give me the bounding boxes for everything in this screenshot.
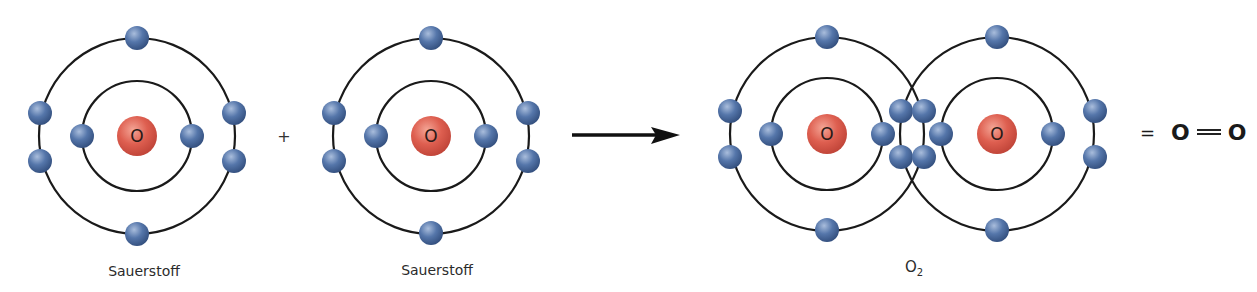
oxygen-bonding-diagram: O O [0,0,1257,292]
formula-atom-right: O [1228,120,1247,145]
electron [222,101,246,125]
electron [474,124,498,148]
electron [222,149,246,173]
nucleus-symbol-right: O [990,124,1003,144]
nucleus-symbol: O [424,126,437,146]
shared-electron [912,145,936,169]
nucleus-symbol: O [130,126,143,146]
electron [180,124,204,148]
reaction-arrow [572,127,680,144]
electron [28,101,52,125]
reactant-label-2: Sauerstoff [401,262,473,278]
electron [419,221,443,245]
electron [322,101,346,125]
electron [985,218,1009,242]
electron [929,122,953,146]
electron [718,99,742,123]
plus-operator: + [277,127,290,146]
formula-atom-left: O [1171,120,1190,145]
reactant-label-1: Sauerstoff [108,263,180,279]
electron [1041,122,1065,146]
electron [419,26,443,50]
double-bond-icon [1197,129,1221,135]
electron [125,222,149,246]
electron [815,218,839,242]
shared-electron [889,145,913,169]
electron [364,124,388,148]
inner-electrons [759,122,1065,146]
shared-electron [889,99,913,123]
electron [516,101,540,125]
equals-sign: = [1140,122,1155,143]
product-o2-molecule: O O [718,25,1107,242]
product-formula-main: O [905,258,917,276]
reactant-oxygen-atom-2: O [322,26,540,245]
electron [759,122,783,146]
electron [718,145,742,169]
electron [871,122,895,146]
structural-formula: = O O [1140,118,1247,146]
electron [1083,145,1107,169]
electron [125,26,149,50]
electron [516,149,540,173]
nucleus-symbol-left: O [820,124,833,144]
electron [815,25,839,49]
shared-electron [912,99,936,123]
electron [322,149,346,173]
reactant-oxygen-atom-1: O [28,26,246,246]
product-label: O2 [905,258,923,278]
electron [28,149,52,173]
electron [70,124,94,148]
shared-bonding-electrons [889,99,936,169]
electron [1083,99,1107,123]
product-formula-subscript: 2 [917,267,923,278]
electron [985,25,1009,49]
